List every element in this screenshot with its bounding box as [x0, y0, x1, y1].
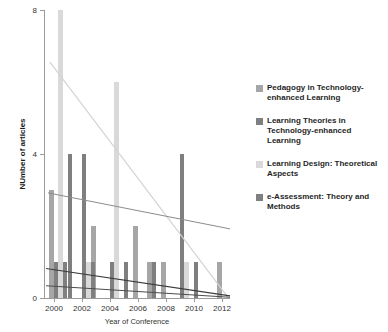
legend-item[interactable]: Learning Theories in Technology-enhanced… [256, 116, 384, 146]
y-axis-title: NUmber of articles [18, 118, 27, 189]
legend-swatch-icon [256, 161, 263, 168]
x-tick-mark [166, 298, 167, 302]
y-tick-label: 4 [33, 150, 37, 159]
x-tick-mark [222, 298, 223, 302]
x-tick-label: 2010 [185, 304, 203, 313]
x-tick-mark [110, 298, 111, 302]
x-tick-label: 2006 [129, 304, 147, 313]
legend-label: Learning Theories in Technology-enhanced… [267, 116, 384, 146]
legend-label: e-Assessment: Theory and Methods [267, 192, 384, 212]
x-tick-mark [138, 298, 139, 302]
y-tick-mark [40, 298, 44, 299]
chart-root: 048 2000200220042006200820102012 NUmber … [0, 0, 388, 332]
y-tick-label: 0 [33, 294, 37, 303]
x-axis-title: Year of Conference [44, 317, 230, 326]
x-tick-label: 2008 [157, 304, 175, 313]
x-tick-mark [194, 298, 195, 302]
x-tick-label: 2000 [45, 304, 63, 313]
legend-label: Learning Design: Theoretical Aspects [267, 159, 384, 179]
x-tick-mark [54, 298, 55, 302]
trendline-group [44, 10, 230, 298]
legend-swatch-icon [256, 194, 263, 201]
legend-item[interactable]: Pedagogy in Technology-enhanced Learning [256, 83, 384, 103]
legend-swatch-icon [256, 85, 263, 92]
y-tick-label: 8 [33, 6, 37, 15]
x-tick-mark [82, 298, 83, 302]
x-axis-line [44, 298, 230, 299]
chart-legend: Pedagogy in Technology-enhanced Learning… [256, 83, 384, 225]
trendline [50, 62, 228, 297]
legend-item[interactable]: Learning Design: Theoretical Aspects [256, 159, 384, 179]
legend-item[interactable]: e-Assessment: Theory and Methods [256, 192, 384, 212]
legend-label: Pedagogy in Technology-enhanced Learning [267, 83, 384, 103]
trendline [48, 193, 230, 229]
x-tick-label: 2004 [101, 304, 119, 313]
x-tick-label: 2012 [213, 304, 231, 313]
plot-area: 048 2000200220042006200820102012 NUmber … [44, 10, 220, 298]
x-tick-label: 2002 [73, 304, 91, 313]
legend-swatch-icon [256, 118, 263, 125]
